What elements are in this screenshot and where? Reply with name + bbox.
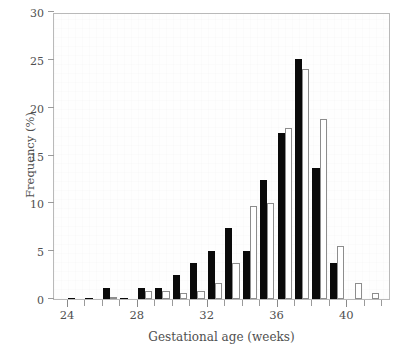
bar-black-31 xyxy=(190,263,197,299)
x-tick-mark-minor xyxy=(84,300,85,306)
plot-area xyxy=(53,13,390,300)
bar-white-28 xyxy=(145,291,152,299)
x-tick-mark-minor xyxy=(119,300,120,306)
bar-white-35 xyxy=(267,203,274,299)
y-tick-label: 25 xyxy=(14,56,44,67)
x-tick-mark-minor xyxy=(102,300,103,306)
x-tick-mark-minor xyxy=(172,300,173,306)
y-tick-label: 30 xyxy=(14,8,44,19)
bar-black-35 xyxy=(260,180,267,299)
bar-black-28 xyxy=(138,288,145,299)
x-tick-label: 36 xyxy=(269,309,284,322)
bar-white-40 xyxy=(355,283,362,299)
x-tick-mark-major xyxy=(137,300,138,307)
x-axis-title: Gestational age (weeks) xyxy=(53,330,390,344)
bar-white-38 xyxy=(320,119,327,299)
bar-white-37 xyxy=(302,69,309,299)
bar-black-30 xyxy=(173,275,180,299)
y-tick-label: 10 xyxy=(14,199,44,210)
bar-black-34 xyxy=(243,251,250,299)
y-tick-mark xyxy=(48,11,54,12)
bar-white-36 xyxy=(285,128,292,299)
x-tick-label: 32 xyxy=(199,309,214,322)
bar-white-34 xyxy=(250,206,257,299)
figure: Frequency (%) 051015202530 2428323640 Ge… xyxy=(0,0,403,355)
bar-black-27 xyxy=(120,298,127,299)
bar-black-37 xyxy=(295,59,302,299)
x-tick-mark-minor xyxy=(189,300,190,306)
bar-white-32 xyxy=(215,283,222,299)
x-tick-mark-major xyxy=(346,300,347,307)
bar-white-29 xyxy=(162,291,169,299)
y-tick-label: 15 xyxy=(14,152,44,163)
bar-layer xyxy=(54,14,389,299)
x-tick-mark-minor xyxy=(259,300,260,306)
x-tick-mark-minor xyxy=(242,300,243,306)
y-tick-mark xyxy=(48,59,54,60)
y-tick-mark xyxy=(48,202,54,203)
bar-black-38 xyxy=(312,168,319,299)
bar-white-30 xyxy=(180,293,187,299)
bar-white-33 xyxy=(232,263,239,299)
x-axis-ticks xyxy=(53,300,391,307)
x-tick-mark-minor xyxy=(329,300,330,306)
bar-white-41 xyxy=(372,293,379,299)
bar-white-39 xyxy=(337,246,344,299)
x-tick-mark-major xyxy=(277,300,278,307)
bar-black-39 xyxy=(330,263,337,299)
x-tick-mark-minor xyxy=(381,300,382,306)
x-tick-label: 28 xyxy=(129,309,144,322)
bar-black-33 xyxy=(225,228,232,299)
x-tick-mark-minor xyxy=(364,300,365,306)
bar-black-25 xyxy=(85,298,92,299)
bar-white-31 xyxy=(197,291,204,299)
bar-white-26 xyxy=(110,297,117,299)
bar-black-29 xyxy=(155,288,162,299)
x-tick-mark-minor xyxy=(154,300,155,306)
y-tick-label: 20 xyxy=(14,104,44,115)
x-tick-mark-minor xyxy=(294,300,295,306)
bar-black-26 xyxy=(103,288,110,299)
y-tick-label: 0 xyxy=(14,295,44,306)
y-tick-mark xyxy=(48,107,54,108)
bar-black-24 xyxy=(68,298,75,299)
bar-black-36 xyxy=(278,133,285,299)
y-tick-label: 5 xyxy=(14,247,44,258)
y-tick-mark xyxy=(48,250,54,251)
x-tick-mark-minor xyxy=(224,300,225,306)
x-tick-label: 40 xyxy=(339,309,354,322)
x-tick-mark-major xyxy=(67,300,68,307)
y-tick-mark xyxy=(48,298,54,299)
y-tick-mark xyxy=(48,155,54,156)
x-tick-mark-minor xyxy=(311,300,312,306)
x-tick-label: 24 xyxy=(60,309,75,322)
x-axis-tick-labels: 2428323640 xyxy=(53,309,391,325)
x-tick-mark-major xyxy=(207,300,208,307)
bar-black-32 xyxy=(208,251,215,299)
